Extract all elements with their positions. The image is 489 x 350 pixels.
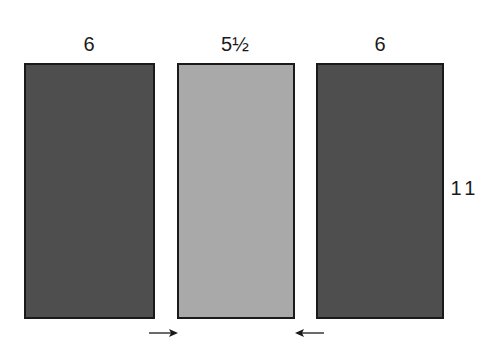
middle-panel xyxy=(177,63,295,319)
left-panel xyxy=(24,63,155,319)
arrow-left-icon xyxy=(293,327,325,339)
left-panel-width-label: 6 xyxy=(74,34,104,54)
right-panel-width-label: 6 xyxy=(365,34,395,54)
arrow-right-icon xyxy=(148,327,180,339)
height-label: 11 xyxy=(450,178,480,198)
middle-panel-width-label: 5½ xyxy=(215,34,255,54)
right-panel xyxy=(316,63,444,319)
